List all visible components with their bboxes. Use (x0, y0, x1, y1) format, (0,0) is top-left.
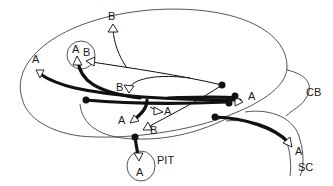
label-b-lower: B (150, 124, 157, 136)
label-b-mid: B (116, 81, 123, 93)
label-b-top: B (108, 10, 115, 22)
pathway-a-sc (215, 117, 288, 142)
pathway-a-circle (78, 61, 140, 98)
pathway-b-lower (148, 85, 222, 127)
label-b-circle: B (83, 46, 90, 58)
arrow-b-circle (86, 57, 95, 66)
brain-pathway-diagram: A A B B B A A B A A A CB SC PIT (0, 0, 333, 186)
cell-body-pit (132, 134, 139, 141)
region-label-sc: SC (298, 161, 313, 173)
region-label-pit: PIT (157, 154, 174, 166)
pathway-b-top (113, 30, 127, 68)
arrow-b-mid (124, 85, 134, 93)
spinal-cord-outline-inner (226, 121, 291, 176)
cell-body-right-low (226, 100, 233, 107)
cell-body-sc (212, 114, 219, 121)
label-a-center-left: A (118, 114, 126, 126)
label-a-right: A (248, 90, 256, 102)
cell-body-right-top (219, 82, 226, 89)
arrow-a-center-right (154, 107, 163, 115)
pathway-b-mid (130, 76, 190, 87)
arrow-a-pit (134, 153, 143, 161)
arrow-a-circle (73, 56, 82, 65)
label-a-circle: A (72, 43, 80, 55)
spinal-cord-outline-outer (245, 111, 303, 176)
pathway-a-right (168, 97, 235, 98)
region-label-cb: CB (306, 86, 321, 98)
cell-body-right-mid (232, 93, 239, 100)
label-a-left: A (32, 53, 40, 65)
arrow-b-top (108, 24, 118, 32)
cell-body-left (83, 97, 90, 104)
label-a-pit: A (136, 166, 144, 178)
pathway-b-to-circle (92, 62, 222, 85)
label-a-center-right: A (164, 105, 172, 117)
label-a-sc: A (295, 145, 303, 157)
cerebrum-outline (20, 9, 287, 137)
